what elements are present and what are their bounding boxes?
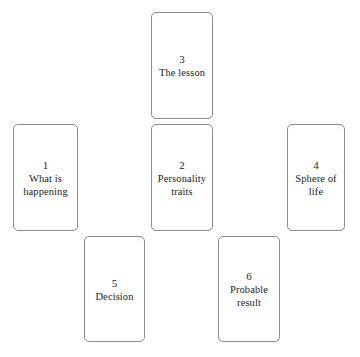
card-slot-2[interactable]: 2 Personality traits <box>151 124 213 231</box>
card-label: Personality traits <box>158 172 206 198</box>
card-slot-3[interactable]: 3 The lesson <box>151 12 213 119</box>
card-slot-1[interactable]: 1 What is happening <box>13 124 78 231</box>
card-label: What is happening <box>23 172 68 198</box>
card-label: Decision <box>95 290 133 303</box>
card-label: The lesson <box>159 66 205 79</box>
card-number: 3 <box>179 52 185 66</box>
card-slot-6[interactable]: 6 Probable result <box>218 236 280 342</box>
card-number: 1 <box>43 158 49 172</box>
tarot-spread-diagram: 3 The lesson 1 What is happening 2 Perso… <box>0 0 360 357</box>
card-slot-4[interactable]: 4 Sphere of life <box>287 124 345 231</box>
card-label: Probable result <box>230 283 268 309</box>
card-label: Sphere of life <box>295 172 336 198</box>
card-number: 5 <box>112 276 118 290</box>
card-number: 6 <box>246 269 252 283</box>
card-number: 4 <box>313 158 319 172</box>
card-slot-5[interactable]: 5 Decision <box>84 236 145 342</box>
card-number: 2 <box>179 158 185 172</box>
